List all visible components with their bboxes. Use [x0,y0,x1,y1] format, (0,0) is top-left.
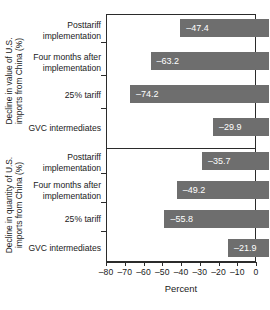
bar-row: –63.2 [106,52,269,70]
bar-value-label: –21.9 [234,239,257,257]
x-axis-tick [219,262,220,266]
category-label-line2: implementation [43,191,101,201]
x-axis-tick [144,262,145,266]
category-label-gvc-quantity: GVC intermediates [5,243,101,254]
category-label-line2: implementation [43,31,101,41]
category-label-25-tariff-quantity: 25% tariff [5,214,101,225]
category-label-25-tariff-value: 25% tariff [5,90,101,101]
category-label-line1: Four months after [33,52,101,62]
category-tick [101,202,106,203]
bar-four-months-value: –63.2 [151,52,270,70]
x-axis-tick [162,262,163,266]
x-axis-label: Percent [106,283,256,294]
bar-gvc-quantity: –21.9 [228,239,269,257]
bar-gvc-value: –29.9 [213,118,269,136]
bar-25-tariff-value: –74.2 [130,85,269,103]
x-axis-tick [181,262,182,266]
category-label-line1: 25% tariff [65,90,101,100]
category-tick [101,173,106,174]
category-label-gvc-value: GVC intermediates [5,123,101,134]
bar-row: –74.2 [106,85,269,103]
category-label-posttariff-value: Posttariff implementation [5,20,101,41]
y-axis-title-value-line1: Decline in value of U.S. [4,37,14,124]
chart-figure: Decline in value of U.S. imports from Ch… [0,0,269,310]
category-label-line2: implementation [43,63,101,73]
x-axis-tick [237,262,238,266]
x-axis-tick [125,262,126,266]
bar-four-months-quantity: –49.2 [177,181,269,199]
x-axis-tick [200,262,201,266]
bar-row: –55.8 [106,210,269,228]
category-tick [101,75,106,76]
bar-value-label: –29.9 [219,118,242,136]
bar-value-label: –35.7 [208,152,231,170]
bar-value-label: –49.2 [183,181,206,199]
bar-row: –47.4 [106,19,269,37]
category-tick [101,42,106,43]
category-label-posttariff-quantity: Posttariff implementation [5,152,101,173]
y-axis-title-value-line2: imports from China (%) [14,38,24,124]
bar-posttariff-value: –47.4 [180,19,269,37]
bar-row: –35.7 [106,152,269,170]
category-label-four-months-value: Four months after implementation [5,52,101,73]
bar-value-label: –74.2 [136,85,159,103]
bar-value-label: –63.2 [157,52,180,70]
category-label-line1: 25% tariff [65,214,101,224]
bar-row: –21.9 [106,239,269,257]
category-label-line1: GVC intermediates [28,243,101,253]
bar-posttariff-quantity: –35.7 [202,152,269,170]
category-label-line2: implementation [43,163,101,173]
category-label-line1: Posttariff [67,152,101,162]
category-label-line1: Posttariff [67,20,101,30]
category-label-four-months-quantity: Four months after implementation [5,180,101,201]
x-axis-tick [256,262,257,266]
bar-value-label: –47.4 [186,19,209,37]
y-axis-title-value: Decline in value of U.S. imports from Ch… [4,37,24,124]
category-label-line1: GVC intermediates [28,123,101,133]
category-tick [101,108,106,109]
bar-value-label: –55.8 [170,210,193,228]
x-axis-tick [106,262,107,266]
bar-row: –49.2 [106,181,269,199]
bar-25-tariff-quantity: –55.8 [164,210,269,228]
bar-row: –29.9 [106,118,269,136]
x-axis-tick-label: 0 [245,267,267,277]
category-tick [101,231,106,232]
category-label-line1: Four months after [33,180,101,190]
y-axis-title-quantity-line2: imports from China (%) [14,162,24,248]
